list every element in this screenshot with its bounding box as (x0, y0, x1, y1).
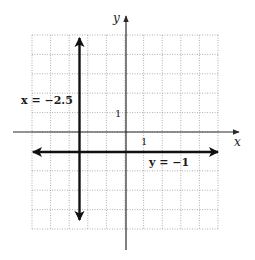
vertical-line-equation: x = −2.5 (21, 94, 73, 107)
x-axis-label: x (234, 135, 241, 149)
horizontal-line-equation: y = −1 (148, 156, 189, 169)
coordinate-plane: y x 1 1 x = −2.5 y = −1 (0, 0, 255, 260)
x-tick-one: 1 (141, 136, 147, 147)
y-axis-label: y (112, 11, 120, 25)
y-tick-one: 1 (115, 108, 121, 119)
